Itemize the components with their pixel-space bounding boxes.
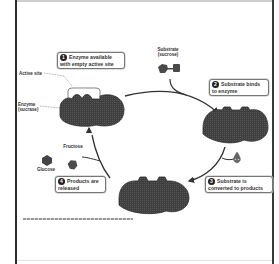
glucose-icon xyxy=(42,155,52,166)
step-4-text-line1: Products are xyxy=(67,178,99,184)
active-site-label: Active site xyxy=(19,71,45,76)
step-2-text-line2: to enzyme xyxy=(212,88,237,94)
step-3-box: 3Substrate is converted to products xyxy=(205,176,273,193)
enzyme-label-line2: (sucrase) xyxy=(18,107,42,112)
fructose-label: Fructose xyxy=(60,144,86,149)
step-2-box: 2Substrate binds to enzyme xyxy=(209,79,269,96)
enzyme-empty-active-site xyxy=(60,95,124,127)
step-1-text-line1: Enzyme available xyxy=(69,54,112,60)
step-2-number: 2 xyxy=(212,81,219,88)
substrate-sucrose-icon xyxy=(158,64,180,73)
step-1-number: 1 xyxy=(60,54,67,61)
water-droplet-icon xyxy=(234,152,241,163)
step-4-number: 4 xyxy=(58,178,65,185)
step-3-number: 3 xyxy=(208,178,215,185)
glucose-label: Glucose xyxy=(33,167,59,172)
cycle-arrow-1-to-2 xyxy=(125,91,218,113)
figure-credit-line xyxy=(23,218,133,220)
products-exit-arrow xyxy=(82,157,100,161)
product-exit-arrow-water xyxy=(222,158,234,160)
step-2-text-line1: Substrate binds xyxy=(221,81,260,87)
enzyme-leader xyxy=(40,106,60,108)
step-4-box: 4Products are released xyxy=(55,176,106,193)
enzyme-label: Enzyme (sucrase) xyxy=(18,102,42,112)
active-site-leader xyxy=(44,73,72,86)
substrate-label: Substrate (sucrose) xyxy=(155,47,181,57)
enzyme-products-formed xyxy=(119,177,189,214)
step-1-box: 1Enzyme available with empty active site xyxy=(57,52,125,69)
fructose-icon xyxy=(67,159,78,171)
step-4-text-line2: released xyxy=(58,185,79,191)
step-3-text-line2: converted to products xyxy=(208,185,263,191)
substrate-label-line2: (sucrose) xyxy=(155,52,181,57)
enzyme-cycle-diagram xyxy=(0,0,279,264)
step-1-text-line2: with empty active site xyxy=(60,61,114,67)
cycle-arrow-3-to-4 xyxy=(92,135,110,178)
enzyme-substrate-bound xyxy=(203,107,268,143)
step-3-text-line1: Substrate is xyxy=(217,178,247,184)
